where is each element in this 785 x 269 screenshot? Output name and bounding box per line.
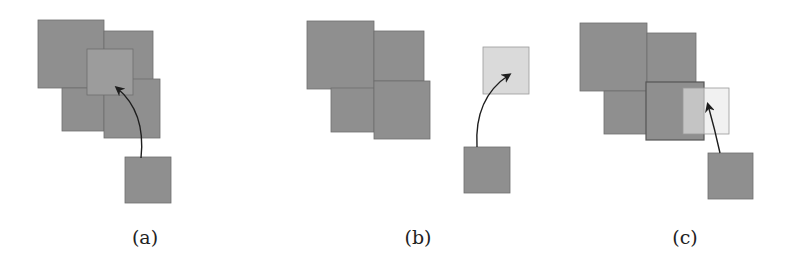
square-cluster bbox=[307, 21, 374, 89]
square-cluster bbox=[374, 81, 430, 139]
square-target-free bbox=[483, 47, 529, 94]
square-cluster bbox=[604, 91, 647, 134]
square-cluster bbox=[580, 23, 647, 91]
caption-a: (a) bbox=[132, 226, 158, 248]
square-cluster bbox=[647, 33, 696, 83]
panel-c bbox=[580, 23, 753, 199]
panel-a bbox=[38, 20, 171, 203]
caption-b: (b) bbox=[405, 226, 432, 248]
square-moving bbox=[464, 147, 510, 193]
square-moving bbox=[125, 157, 171, 203]
figure-canvas bbox=[0, 0, 785, 269]
square-cluster bbox=[331, 88, 374, 132]
square-moving bbox=[708, 153, 753, 199]
square-target-partial bbox=[683, 88, 729, 134]
panel-b bbox=[307, 21, 529, 193]
square-target-overlap bbox=[87, 49, 133, 95]
caption-c: (c) bbox=[672, 226, 697, 248]
square-cluster bbox=[374, 31, 424, 81]
